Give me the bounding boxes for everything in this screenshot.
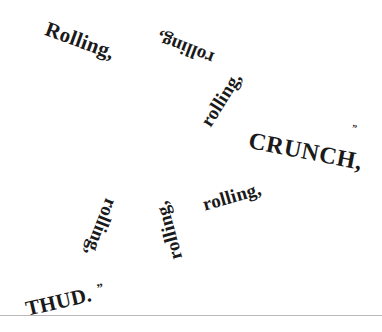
comic-sfx-panel: Rolling, rolling, rolling, CRUNCH, ” rol… xyxy=(0,0,382,332)
sfx-rolling-6: rolling, xyxy=(82,196,121,259)
footer-divider xyxy=(0,315,382,316)
sfx-rolling-5: rolling, xyxy=(151,199,185,262)
sfx-rolling-2: rolling, xyxy=(154,29,217,68)
sfx-rolling-3: rolling, xyxy=(197,69,245,130)
sfx-crunch: CRUNCH, xyxy=(247,128,365,174)
sfx-rolling-1: Rolling, xyxy=(42,19,117,63)
sfx-rolling-4: rolling, xyxy=(200,179,263,214)
crunch-close-quote-mark: ” xyxy=(351,122,358,134)
thud-close-quote-mark: ” xyxy=(95,280,105,297)
